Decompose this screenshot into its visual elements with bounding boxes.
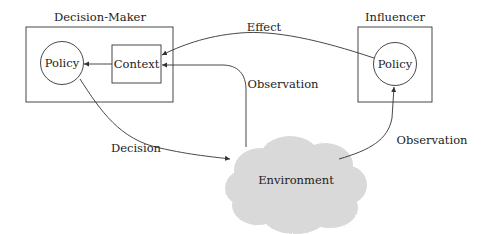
decision-label: Decision: [111, 141, 162, 155]
observation-influencer-label: Observation: [397, 133, 469, 147]
observation-influencer-arrow: [339, 87, 394, 159]
dm-policy-label: Policy: [45, 56, 80, 70]
diagram-canvas: Environment Decision-Maker Policy Contex…: [0, 0, 484, 234]
decision-maker-label: Decision-Maker: [54, 10, 146, 24]
influencer-label: Influencer: [365, 10, 425, 24]
effect-label: Effect: [247, 20, 282, 34]
observation-dm-arrow: [162, 65, 246, 147]
effect-arrow: [162, 32, 374, 58]
influencer-policy-label: Policy: [378, 57, 413, 71]
observation-dm-label: Observation: [248, 77, 320, 91]
environment-label: Environment: [258, 173, 334, 187]
context-label: Context: [114, 57, 160, 71]
